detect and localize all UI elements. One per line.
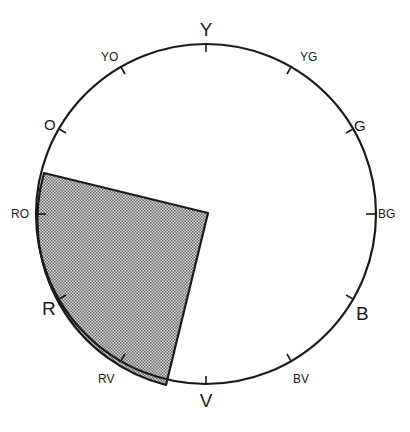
label-YG: YG [300,50,317,64]
label-BV: BV [293,372,309,386]
label-O: O [44,116,56,133]
label-V: V [200,390,213,411]
color-wheel-diagram: Y YG G BG B BV V RV R RO O YO [0,0,410,432]
label-BG: BG [378,207,395,221]
label-YO: YO [101,50,118,64]
label-RV: RV [98,372,114,386]
label-RO: RO [11,207,29,221]
label-R: R [42,298,56,319]
label-Y: Y [200,19,213,40]
label-B: B [356,303,369,324]
shaded-sector [37,173,208,385]
label-G: G [354,117,366,134]
